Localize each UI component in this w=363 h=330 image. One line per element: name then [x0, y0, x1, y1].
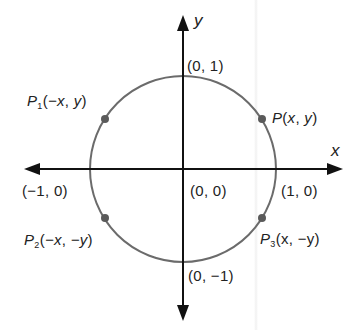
y-axis-top-arrow: [177, 15, 189, 31]
x-axis-label: x: [331, 142, 340, 159]
point-p2: [101, 214, 109, 222]
unit-circle-diagram: [0, 0, 363, 330]
point-p1: [101, 115, 109, 123]
x-axis-right-arrow: [327, 163, 343, 175]
x-axis-left-arrow: [24, 163, 40, 175]
point-p3: [258, 214, 266, 222]
y-axis-label: y: [194, 12, 203, 29]
point-p3-label: P3(x, −y): [260, 231, 320, 246]
point-p1-label: P1(−x, y): [27, 93, 87, 108]
intercept-bottom-label: (0, −1): [188, 268, 234, 283]
origin-label: (0, 0): [190, 183, 227, 198]
intercept-top-label: (0, 1): [187, 58, 224, 73]
point-p-label: P(x, y): [272, 110, 317, 125]
point-p: [258, 115, 266, 123]
intercept-right-label: (1, 0): [281, 183, 318, 198]
y-axis-bottom-arrow: [177, 305, 189, 321]
intercept-left-label: (−1, 0): [22, 183, 68, 198]
point-p2-label: P2(−x, −y): [24, 232, 93, 247]
